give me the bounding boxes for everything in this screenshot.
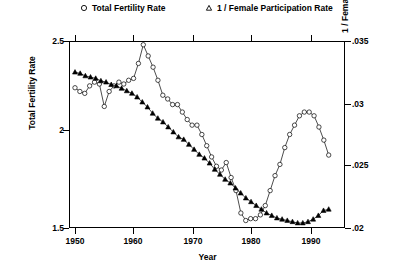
circle-marker-icon [80, 4, 88, 12]
triangle-marker-icon [205, 4, 213, 12]
series-total-fertility-rate [73, 43, 331, 223]
y-right-tickmark-3 [345, 165, 351, 166]
y-left-tickmark-3 [63, 228, 69, 229]
x-tick-1950: 1950 [55, 236, 95, 246]
x-top-tickmark-1970 [193, 35, 194, 41]
y-left-tickmark-2 [63, 130, 69, 131]
y-right-tickmark-4 [345, 228, 351, 229]
x-tickmark-1990 [311, 228, 312, 234]
y-left-tickmark-1 [63, 41, 69, 42]
y-right-tick-03: .03 [352, 99, 364, 109]
y-left-axis-label: Total Fertility Rate [27, 23, 37, 163]
x-top-tickmark-1990 [311, 35, 312, 41]
x-top-tickmark-1980 [251, 35, 252, 41]
x-tickmark-1980 [251, 228, 252, 234]
y-left-tick-1-5: 1.5 [28, 223, 64, 233]
x-tick-1980: 1980 [231, 236, 271, 246]
y-right-tick-025: .025 [352, 160, 369, 170]
legend-item-inverse-female-participation-rate: 1 / Female Participation Rate [205, 3, 333, 13]
x-top-tickmark-1960 [133, 35, 134, 41]
x-tick-1970: 1970 [173, 236, 213, 246]
x-tick-1960: 1960 [113, 236, 153, 246]
y-right-tickmark-2 [345, 104, 351, 105]
x-tickmark-1950 [75, 228, 76, 234]
series-inverse-female-participation-rate [73, 70, 332, 225]
chart-legend: Total Fertility Rate 1 / Female Particip… [0, 2, 415, 18]
y-right-axis-label: 1 / Female Participation Rate [340, 0, 350, 60]
chart-root: Total Fertility Rate 1 / Female Particip… [0, 0, 415, 268]
y-right-tick-02: .02 [352, 223, 364, 233]
y-right-tick-035: .035 [352, 36, 369, 46]
x-top-tickmark-1950 [75, 35, 76, 41]
legend-label-inverse-female-participation-rate: 1 / Female Participation Rate [217, 3, 333, 13]
plot-area [69, 41, 345, 228]
x-tick-1990: 1990 [291, 236, 331, 246]
legend-item-total-fertility-rate: Total Fertility Rate [80, 3, 166, 13]
legend-label-total-fertility-rate: Total Fertility Rate [92, 3, 166, 13]
x-tickmark-1970 [193, 228, 194, 234]
x-axis-label: Year [0, 252, 415, 262]
x-tickmark-1960 [133, 228, 134, 234]
